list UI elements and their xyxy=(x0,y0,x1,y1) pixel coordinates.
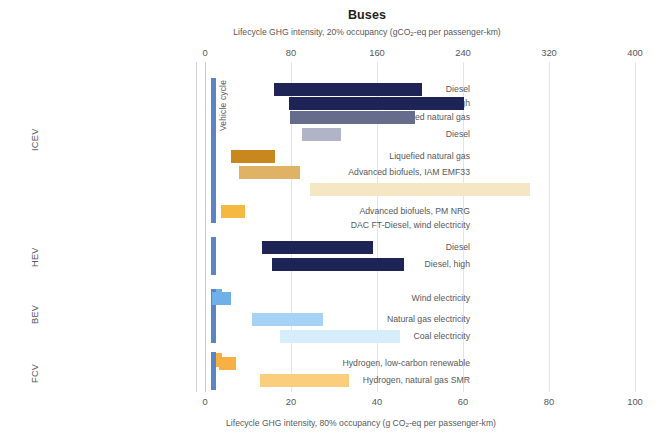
tick-label-bottom-60: 60 xyxy=(458,396,468,407)
bar-range xyxy=(302,128,341,141)
group-label-bev: BEV xyxy=(30,293,40,335)
row-label: Diesel xyxy=(446,83,470,96)
bar-range xyxy=(231,150,275,163)
bar-range xyxy=(252,313,323,326)
bottom-caption-pre: Lifecycle GHG intensity, 80% occupancy (… xyxy=(226,418,405,428)
bar-range xyxy=(260,374,349,387)
row-label: Diesel xyxy=(446,128,470,141)
chart-title: Buses xyxy=(0,8,672,22)
gridline-400 xyxy=(635,62,636,392)
row-label: Coal electricity xyxy=(414,330,471,343)
row-label: Wind electricity xyxy=(412,292,470,305)
row-label: Liquefied natural gas xyxy=(389,150,470,163)
chart-canvas: Buses Lifecycle GHG intensity, 20% occup… xyxy=(0,0,672,445)
bar-range xyxy=(239,166,300,179)
vehicle-cycle-bar-icev xyxy=(211,78,216,223)
tick-label-bottom-80: 80 xyxy=(544,396,554,407)
bar-range xyxy=(272,258,404,271)
vehicle-cycle-bar-hev xyxy=(211,237,216,275)
row-label: Hydrogen, low-carbon renewable xyxy=(343,357,471,370)
bar-range xyxy=(280,330,400,343)
group-label-fcv: FCV xyxy=(30,353,40,393)
row-label: DAC FT-Diesel, wind electricity xyxy=(351,219,470,232)
subtitle-post: -eq per passenger-km) xyxy=(414,27,501,37)
bar-range xyxy=(212,292,231,305)
bottom-caption-post: -eq per passenger-km) xyxy=(409,418,496,428)
group-label-hev: HEV xyxy=(30,237,40,277)
tick-label-bottom-100: 100 xyxy=(627,396,643,407)
tick-label-bottom-20: 20 xyxy=(286,396,296,407)
bar-range xyxy=(262,241,373,254)
bar-range xyxy=(310,183,530,196)
bar-range xyxy=(289,97,464,110)
bar-range xyxy=(221,205,245,218)
tick-label-top-240: 240 xyxy=(455,47,471,58)
tick-label-top-80: 80 xyxy=(286,47,296,58)
axis-zero-line xyxy=(205,62,206,392)
bar-range xyxy=(219,357,236,370)
tick-label-top-160: 160 xyxy=(369,47,385,58)
tick-label-bottom-40: 40 xyxy=(372,396,382,407)
tick-label-top-0: 0 xyxy=(202,47,207,58)
row-label: Advanced biofuels, PM NRG xyxy=(359,205,470,218)
row-label: Diesel, high xyxy=(425,258,470,271)
row-label: Natural gas electricity xyxy=(387,313,470,326)
tick-label-bottom-0: 0 xyxy=(202,396,207,407)
vehicle-cycle-label: Vehicle cycle xyxy=(218,80,228,131)
row-label: Hydrogen, natural gas SMR xyxy=(363,374,470,387)
row-label: Advanced biofuels, IAM EMF33 xyxy=(348,166,470,179)
tick-label-top-400: 400 xyxy=(627,47,643,58)
chart-subtitle: Lifecycle GHG intensity, 20% occupancy (… xyxy=(0,27,672,37)
group-label-icev: ICEV xyxy=(30,100,40,180)
row-label: Diesel xyxy=(446,241,470,254)
bottom-axis-caption: Lifecycle GHG intensity, 80% occupancy (… xyxy=(0,418,672,428)
subtitle-pre: Lifecycle GHG intensity, 20% occupancy (… xyxy=(233,27,410,37)
gridline-320 xyxy=(549,62,550,392)
tick-label-top-320: 320 xyxy=(541,47,557,58)
bar-range xyxy=(274,83,422,96)
bar-range xyxy=(290,111,415,124)
axis-outer-rule xyxy=(196,62,197,392)
